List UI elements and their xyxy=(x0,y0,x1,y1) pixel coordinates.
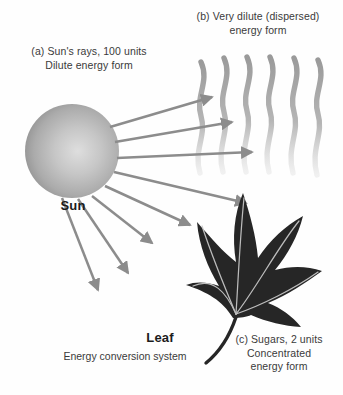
wave-line xyxy=(244,57,250,172)
wave-line xyxy=(198,62,204,173)
label-b-very-dilute: (b) Very dilute (dispersed) energy form xyxy=(178,10,338,37)
ray-arrow xyxy=(115,122,232,142)
label-leaf: Leaf xyxy=(118,330,202,345)
sun-sphere xyxy=(25,104,119,198)
energy-flow-diagram: (b) Very dilute (dispersed) energy form … xyxy=(0,0,343,395)
wave-line xyxy=(221,58,227,172)
ray-arrow xyxy=(110,97,212,127)
label-a-suns-rays: (a) Sun's rays, 100 units Dilute energy … xyxy=(8,45,170,72)
wave-line xyxy=(267,57,273,172)
label-leaf-subtitle: Energy conversion system xyxy=(48,350,202,364)
wave-line xyxy=(315,60,321,175)
dispersed-energy-waves xyxy=(198,57,321,175)
wave-line xyxy=(291,58,297,173)
ray-arrow xyxy=(117,152,252,158)
label-c-sugars: (c) Sugars, 2 units Concentrated energy … xyxy=(218,333,340,374)
label-sun: Sun xyxy=(27,198,119,213)
